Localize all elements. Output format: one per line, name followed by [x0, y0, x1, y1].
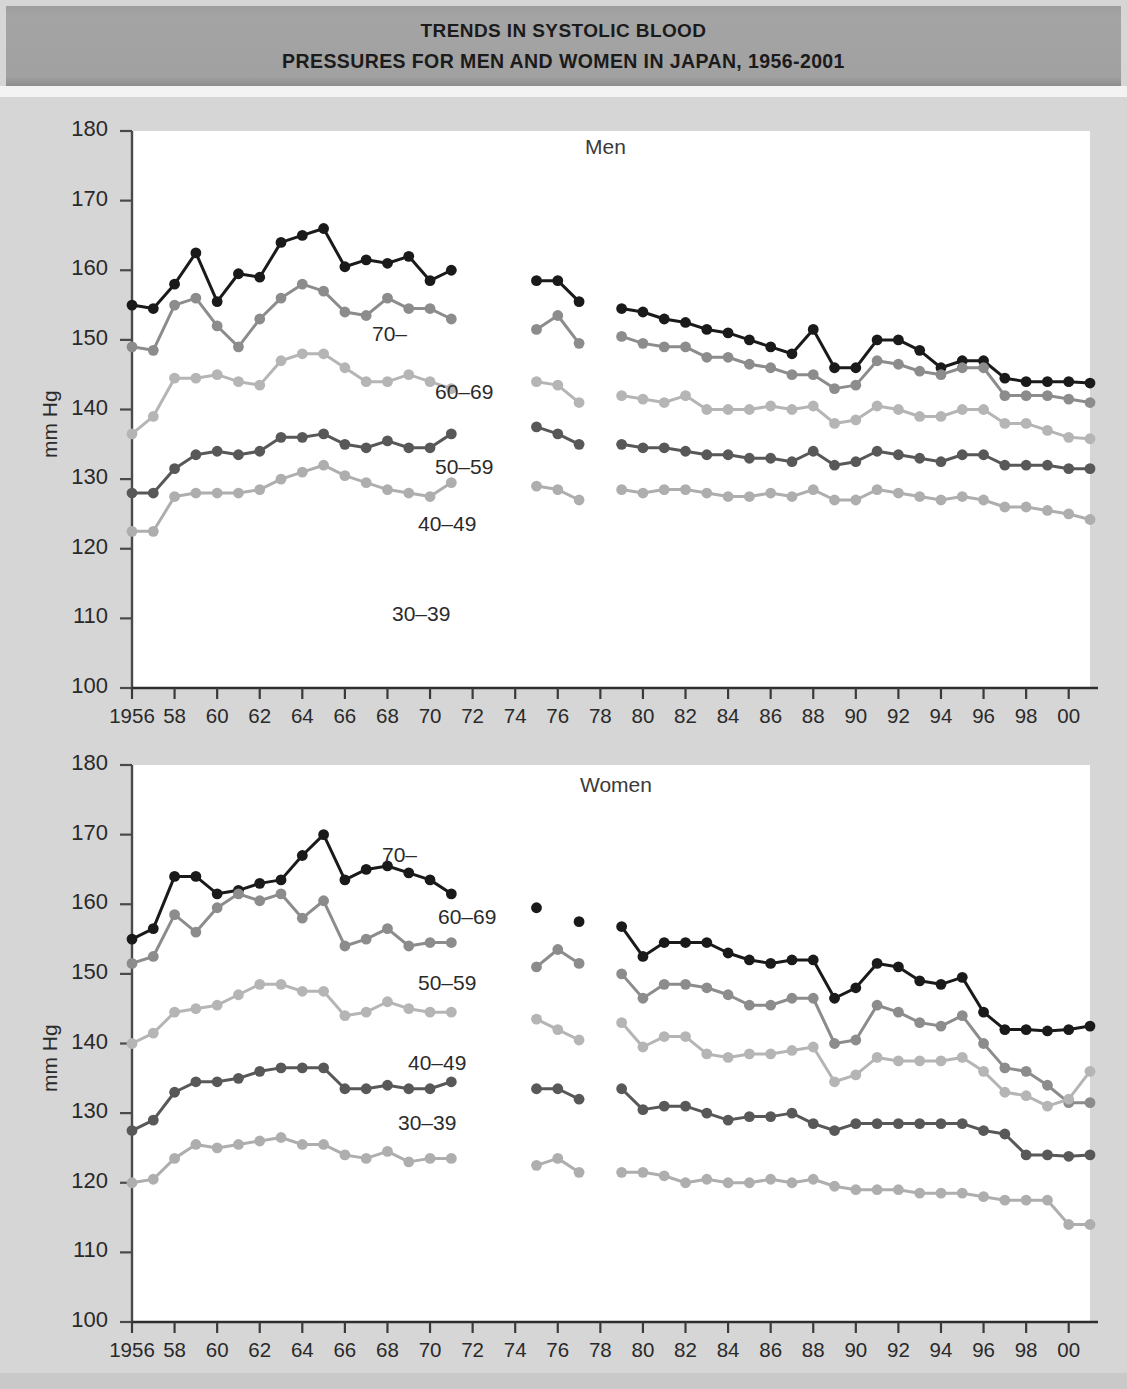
data-point	[850, 1118, 861, 1129]
data-point	[574, 397, 585, 408]
data-point	[701, 404, 712, 415]
data-point	[574, 916, 585, 927]
data-point	[999, 460, 1010, 471]
data-point	[914, 975, 925, 986]
data-point	[148, 951, 159, 962]
plot-area-men	[0, 97, 1127, 727]
data-point	[382, 376, 393, 387]
data-point	[1085, 1021, 1096, 1032]
y-tick-label: 180	[46, 116, 108, 142]
data-point	[936, 979, 947, 990]
data-point	[723, 352, 734, 363]
data-point	[233, 488, 244, 499]
data-point	[127, 1125, 138, 1136]
y-tick-label: 110	[46, 603, 108, 629]
data-point	[999, 373, 1010, 384]
data-point	[1085, 1097, 1096, 1108]
data-point	[850, 1035, 861, 1046]
data-point	[403, 442, 414, 453]
data-point	[148, 1115, 159, 1126]
data-point	[1085, 1066, 1096, 1077]
series-label-1: 70–	[382, 843, 417, 867]
data-point	[744, 491, 755, 502]
data-point	[680, 390, 691, 401]
data-point	[276, 874, 287, 885]
data-point	[616, 390, 627, 401]
data-point	[531, 1160, 542, 1171]
data-point	[552, 484, 563, 495]
data-point	[1021, 1150, 1032, 1161]
data-point	[531, 1083, 542, 1094]
data-point	[254, 272, 265, 283]
data-point	[1021, 502, 1032, 513]
data-point	[914, 366, 925, 377]
data-point	[638, 1104, 649, 1115]
data-point	[850, 1184, 861, 1195]
data-point	[787, 369, 798, 380]
y-tick-label: 120	[46, 1168, 108, 1194]
data-point	[701, 352, 712, 363]
data-point	[1021, 460, 1032, 471]
data-point	[1063, 432, 1074, 443]
data-point	[808, 1042, 819, 1053]
data-point	[787, 993, 798, 1004]
data-point	[382, 484, 393, 495]
data-point	[893, 449, 904, 460]
data-point	[978, 1066, 989, 1077]
data-point	[403, 488, 414, 499]
data-point	[552, 275, 563, 286]
data-point	[382, 1146, 393, 1157]
data-point	[425, 442, 436, 453]
data-point	[914, 453, 925, 464]
data-point	[765, 1049, 776, 1060]
data-point	[339, 941, 350, 952]
data-point	[787, 1045, 798, 1056]
data-point	[425, 1007, 436, 1018]
data-point	[574, 338, 585, 349]
data-point	[233, 1139, 244, 1150]
data-point	[914, 1188, 925, 1199]
data-point	[361, 864, 372, 875]
data-point	[212, 1076, 223, 1087]
data-point	[446, 265, 457, 276]
data-point	[1042, 1080, 1053, 1091]
data-point	[999, 390, 1010, 401]
data-point	[212, 296, 223, 307]
data-point	[808, 1174, 819, 1185]
y-tick-label: 150	[46, 325, 108, 351]
data-point	[744, 453, 755, 464]
y-tick-label: 160	[46, 889, 108, 915]
data-point	[382, 996, 393, 1007]
data-point	[403, 1003, 414, 1014]
data-point	[318, 286, 329, 297]
data-point	[893, 1184, 904, 1195]
data-point	[829, 1076, 840, 1087]
data-point	[1063, 509, 1074, 520]
data-point	[425, 491, 436, 502]
data-point	[148, 923, 159, 934]
data-point	[893, 1056, 904, 1067]
data-point	[276, 888, 287, 899]
data-point	[446, 428, 457, 439]
title-banner: TRENDS IN SYSTOLIC BLOOD PRESSURES FOR M…	[6, 6, 1121, 86]
data-point	[659, 1031, 670, 1042]
data-point	[680, 1031, 691, 1042]
data-point	[999, 1024, 1010, 1035]
data-point	[339, 1010, 350, 1021]
series-label-1: 70–	[372, 322, 407, 346]
data-point	[957, 972, 968, 983]
y-tick-label: 130	[46, 1098, 108, 1124]
data-point	[531, 1014, 542, 1025]
data-point	[680, 317, 691, 328]
data-point	[276, 1062, 287, 1073]
data-point	[1021, 1090, 1032, 1101]
data-point	[723, 328, 734, 339]
data-point	[297, 986, 308, 997]
data-point	[659, 314, 670, 325]
data-point	[382, 923, 393, 934]
data-point	[552, 428, 563, 439]
data-point	[169, 463, 180, 474]
data-point	[999, 1087, 1010, 1098]
data-point	[1042, 1026, 1053, 1037]
data-point	[318, 829, 329, 840]
